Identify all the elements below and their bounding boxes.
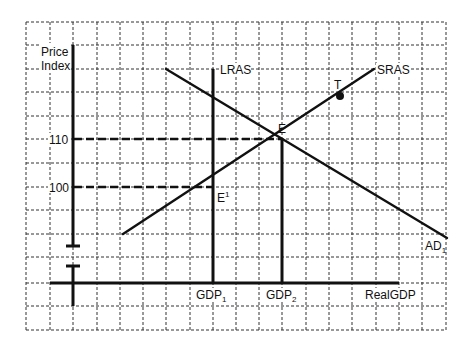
point-e-label: E: [278, 122, 286, 136]
sras-curve: [123, 69, 374, 234]
point-t-label: T: [334, 78, 342, 92]
as-ad-diagram: Price Index 110 100 LRAS SRAS T E E1 AD1…: [0, 0, 472, 350]
y-axis-label-line2: Index: [41, 59, 70, 73]
y-axis: [66, 45, 80, 306]
lras-label: LRAS: [220, 63, 251, 77]
y-tick-110: 110: [49, 133, 68, 147]
sras-label: SRAS: [377, 63, 410, 77]
point-t-marker: [336, 92, 344, 100]
point-e1-label: E1: [217, 190, 230, 205]
y-tick-100: 100: [49, 181, 69, 195]
x-axis-label: RealGDP: [365, 288, 416, 302]
y-axis-label-line1: Price: [41, 45, 69, 59]
